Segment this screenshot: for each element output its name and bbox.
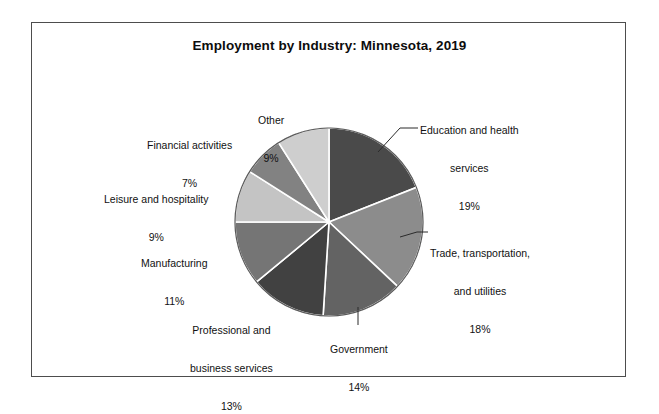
pie-label-other: Other 9% [258,89,284,177]
pie-label-education-line1: Education and health [420,124,519,137]
pie-label-financial-line1: Financial activities [147,139,232,152]
pie-label-professional-line2: business services [190,362,273,375]
pie-label-professional-line1: Professional and [190,324,273,337]
pie-label-government-line1: Government [330,343,388,356]
pie-label-trade-line1: Trade, transportation, [430,247,530,260]
pie-label-education-pct: 19% [420,200,519,213]
pie-label-leisure-pct: 9% [104,231,208,244]
pie-label-trade-line2: and utilities [430,285,530,298]
pie-label-other-line1: Other [258,114,284,127]
pie-label-government-pct: 14% [330,381,388,394]
pie-label-financial-pct: 7% [147,177,232,190]
pie-label-manufacturing-line1: Manufacturing [141,257,208,270]
pie-label-trade: Trade, transportation, and utilities 18% [430,222,530,348]
pie-label-manufacturing-pct: 11% [141,295,208,308]
pie-label-education-line2: services [420,162,519,175]
pie-label-education: Education and health services 19% [420,99,519,225]
pie-label-other-pct: 9% [258,152,284,165]
pie-label-government: Government 14% [330,318,388,406]
pie-label-professional-pct: 13% [190,400,273,413]
pie-label-financial: Financial activities 7% [147,114,232,202]
pie-label-trade-pct: 18% [430,323,530,336]
chart-title: Employment by Industry: Minnesota, 2019 [0,38,659,53]
